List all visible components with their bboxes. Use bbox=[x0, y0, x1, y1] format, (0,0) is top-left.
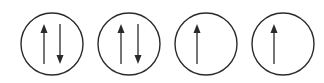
orbital-circle bbox=[21, 13, 83, 75]
spin-down-arrow-icon bbox=[57, 24, 64, 64]
orbital-2 bbox=[98, 13, 160, 75]
spin-up-arrow-icon bbox=[271, 24, 278, 64]
spin-up-arrow-icon bbox=[194, 24, 201, 64]
spin-up-arrow-icon bbox=[41, 24, 48, 64]
orbital-diagram bbox=[0, 0, 324, 83]
orbital-3 bbox=[175, 13, 237, 75]
spin-up-arrow-icon bbox=[118, 24, 125, 64]
orbital-circle bbox=[98, 13, 160, 75]
orbital-1 bbox=[21, 13, 83, 75]
orbital-circle bbox=[175, 13, 237, 75]
orbital-4 bbox=[252, 13, 314, 75]
spin-down-arrow-icon bbox=[135, 24, 142, 64]
orbital-circle bbox=[252, 13, 314, 75]
